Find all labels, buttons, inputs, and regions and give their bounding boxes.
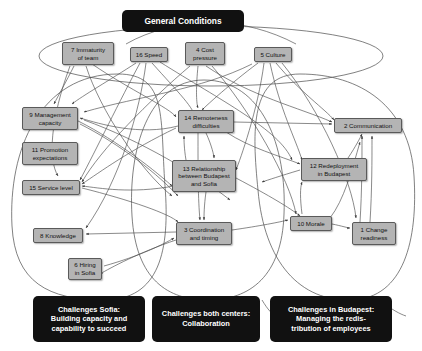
node-11-promotion-expectations[interactable]: 11 Promotion expectations [22,142,78,165]
node-8-knowledge[interactable]: 8 Knowledge [33,228,83,243]
node-15-service-level[interactable]: 15 Service level [22,180,80,195]
node-3-coordination-and-timing[interactable]: 3 Coordination and timing [176,222,232,245]
footer-box-challenges-sofia: Challenges Sofia: Building capacity and … [33,296,145,342]
node-2-communication[interactable]: 2 Communication [334,118,402,133]
node-10-morale[interactable]: 10 Morale [290,216,332,231]
footer-box-challenges-budapest: Challenges in Budapest: Managing the red… [270,296,392,342]
node-5-culture[interactable]: 5 Culture [254,47,292,62]
node-13-relationship-between-budapest-and-sofia[interactable]: 13 Relationship between Budapest and Sof… [172,160,236,192]
title-box-general-conditions: General Conditions [122,10,244,32]
node-12-redeployment-in-budapest[interactable]: 12 Redeployment in Budapest [301,158,367,181]
node-1-change-readiness[interactable]: 1 Change readiness [352,222,396,245]
node-7-immaturity-of-team[interactable]: 7 Immaturity of team [62,42,114,65]
node-9-management-capacity[interactable]: 9 Management capacity [22,107,78,130]
group-outline-budapest [255,74,415,300]
node-14-remoteness-difficulties[interactable]: 14 Remoteness difficulties [178,110,234,133]
footer-box-challenges-both-centers: Challenges both centers: Collaboration [152,296,260,342]
diagram-canvas: General Conditions 7 Immaturity of team … [0,0,422,351]
node-6-hiring-in-sofia[interactable]: 6 Hiring in Sofia [68,258,102,280]
node-16-speed[interactable]: 16 Speed [130,47,168,62]
node-4-cost-pressure[interactable]: 4 Cost pressure [185,42,225,65]
